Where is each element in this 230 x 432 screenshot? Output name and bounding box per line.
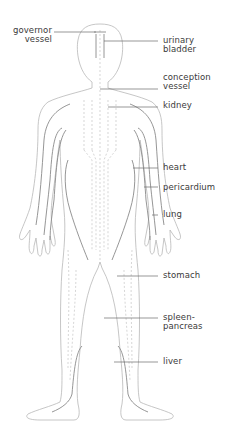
- meridian-body-diagram: [0, 0, 230, 432]
- label-stomach: stomach: [163, 271, 200, 280]
- label-urinary-bladder: urinary bladder: [163, 36, 196, 54]
- leader-lines: [54, 32, 158, 362]
- label-heart: heart: [163, 163, 186, 172]
- label-liver: liver: [163, 357, 182, 366]
- leg-channels: [52, 250, 148, 412]
- label-kidney: kidney: [163, 101, 192, 110]
- label-governor-vessel: governor vessel: [8, 26, 52, 44]
- label-spleen-pancreas: spleen- pancreas: [163, 313, 203, 331]
- label-lung: lung: [163, 210, 182, 219]
- label-conception-vessel: conception vessel: [163, 73, 211, 91]
- label-pericardium: pericardium: [163, 183, 215, 192]
- central-channels: [84, 30, 116, 260]
